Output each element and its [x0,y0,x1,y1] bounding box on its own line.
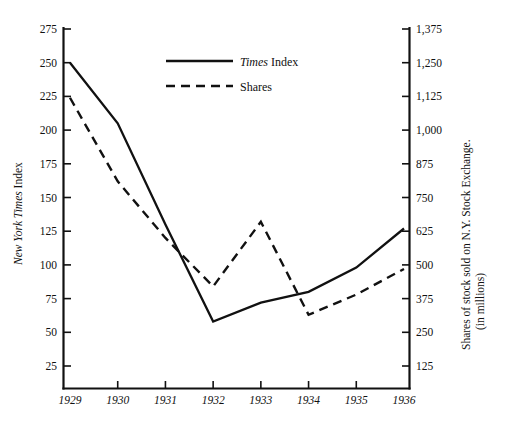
line-chart-canvas: 255075100125150175200225250275 192919301… [0,0,507,432]
left-tick-label: 75 [46,293,58,305]
right-tick-label: 1,375 [416,23,442,36]
x-tick-label: 1933 [249,394,272,406]
x-axis-ticks [118,381,357,389]
left-tick-label: 150 [40,192,58,204]
left-tick-label: 50 [46,326,58,338]
right-tick-label: 1,125 [416,90,442,103]
right-axis-title-line1: Shares of stock sold on N.Y. Stock Excha… [460,139,473,350]
right-axis: 1252503755006257508751,0001,1251,2501,37… [402,23,442,389]
right-axis-tick-labels: 1252503755006257508751,0001,1251,2501,37… [416,23,442,372]
left-tick-label: 225 [40,90,58,102]
x-tick-label: 1934 [297,394,320,406]
right-axis-ticks [402,29,410,366]
x-tick-label: 1936 [393,394,416,406]
legend: Times Index Shares [166,55,298,94]
right-tick-label: 250 [416,326,434,338]
right-tick-label: 375 [416,293,434,305]
x-tick-label: 1935 [345,394,368,406]
left-tick-label: 275 [40,23,58,35]
right-tick-label: 625 [416,225,434,237]
legend-label-times-index: Times Index [240,55,298,69]
chart-figure: 255075100125150175200225250275 192919301… [0,0,507,432]
left-axis-title: New York Times Index [12,162,24,266]
left-tick-label: 200 [40,124,58,136]
x-tick-label: 1929 [59,394,82,406]
left-tick-label: 175 [40,158,58,170]
right-tick-label: 875 [416,158,434,170]
bottom-axis: 19291930193119321933193419351936 [59,381,416,406]
left-axis: 255075100125150175200225250275 [40,23,71,389]
series-line-times-index [70,63,404,322]
right-tick-label: 750 [416,192,434,204]
series-group [70,63,404,322]
svg-text:New York Times Index: New York Times Index [12,162,24,266]
x-axis-tick-labels: 19291930193119321933193419351936 [59,394,416,406]
right-tick-label: 125 [416,360,434,372]
legend-label-shares: Shares [240,80,272,94]
right-axis-title: Shares of stock sold on N.Y. Stock Excha… [460,139,487,350]
x-tick-label: 1931 [154,394,177,406]
x-tick-label: 1932 [202,394,225,406]
right-tick-label: 1,250 [416,57,442,70]
right-tick-label: 1,000 [416,124,442,137]
left-tick-label: 25 [46,360,58,372]
left-tick-label: 125 [40,225,58,237]
x-tick-label: 1930 [106,394,129,406]
right-axis-title-line2: (in millions) [474,273,487,330]
left-axis-tick-labels: 255075100125150175200225250275 [40,23,58,372]
right-tick-label: 500 [416,259,434,271]
left-tick-label: 250 [40,57,58,69]
left-axis-ticks [64,29,72,366]
left-tick-label: 100 [40,259,58,271]
